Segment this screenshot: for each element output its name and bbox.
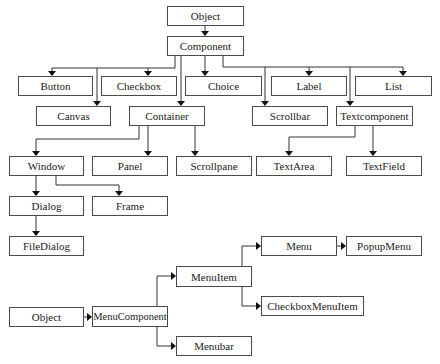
node-container: Container — [129, 106, 205, 126]
class-hierarchy-diagram: Object Component Button Checkbox Choice … — [0, 0, 440, 364]
node-menubar: Menubar — [176, 336, 252, 356]
node-filedialog: FileDialog — [9, 236, 84, 256]
node-object-menu: Object — [9, 307, 84, 327]
node-popupmenu: PopupMenu — [346, 236, 422, 256]
node-frame: Frame — [92, 196, 168, 216]
node-button: Button — [18, 76, 93, 96]
node-scrollbar: Scrollbar — [252, 106, 328, 126]
node-checkboxmenuitem: CheckboxMenuItem — [261, 296, 364, 316]
node-window: Window — [9, 156, 84, 176]
node-label: Label — [271, 76, 347, 96]
node-textarea: TextArea — [256, 156, 332, 176]
node-component: Component — [167, 36, 244, 56]
node-panel: Panel — [92, 156, 168, 176]
node-menucomponent: MenuComponent — [92, 306, 168, 327]
node-scrollpane: Scrollpane — [176, 156, 252, 176]
node-menu: Menu — [261, 236, 337, 256]
node-object: Object — [167, 6, 244, 26]
node-textcomponent: Textcomponent — [336, 106, 413, 126]
node-dialog: Dialog — [9, 196, 84, 216]
node-list: List — [355, 76, 432, 96]
node-textfield: TextField — [346, 156, 422, 176]
node-canvas: Canvas — [36, 106, 111, 126]
node-choice: Choice — [185, 76, 262, 96]
node-checkbox: Checkbox — [101, 76, 177, 96]
node-menuitem: MenuItem — [176, 266, 252, 287]
